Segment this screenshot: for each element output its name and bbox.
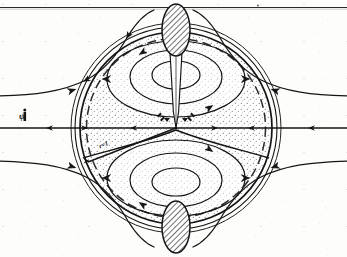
- figure-container: ψ r=1: [0, 0, 347, 257]
- stream-function-label: ψ: [19, 112, 25, 121]
- vortex-streamline-figure: [0, 0, 347, 257]
- polar-jet-upper: [162, 4, 190, 56]
- polar-jet-lower: [162, 201, 190, 253]
